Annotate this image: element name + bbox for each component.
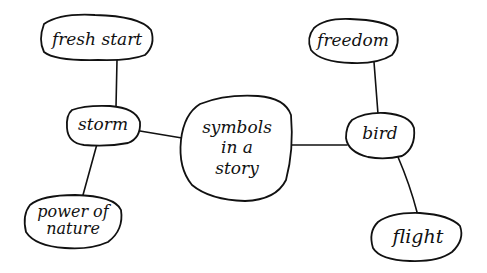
edge-storm-fresh-start xyxy=(116,60,117,107)
edge-bird-flight xyxy=(398,157,417,212)
node-flight xyxy=(371,213,461,261)
node-freedom xyxy=(309,19,398,63)
edge-storm-power-of-nature xyxy=(83,144,97,195)
edge-bird-freedom xyxy=(374,62,378,114)
mind-map-canvas xyxy=(0,0,487,273)
node-storm xyxy=(67,106,140,146)
node-center xyxy=(180,96,291,201)
edge-center-storm xyxy=(140,131,182,138)
node-power-of-nature xyxy=(25,195,122,248)
node-bird xyxy=(346,113,414,158)
node-fresh-start xyxy=(41,15,153,60)
